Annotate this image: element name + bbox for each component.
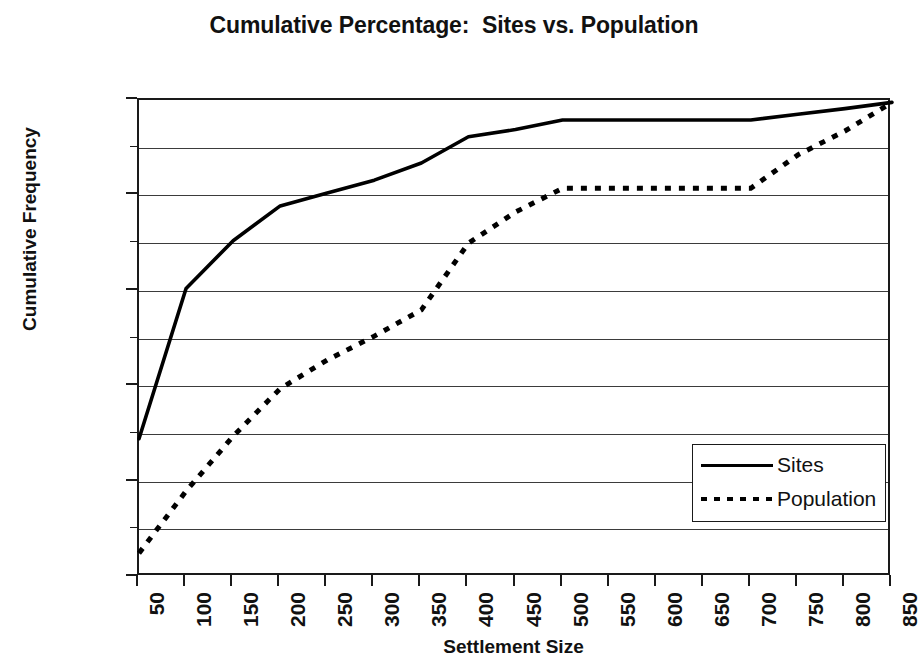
x-tick-mark	[607, 575, 609, 586]
x-tick-label: 50	[145, 592, 169, 656]
gridline	[139, 339, 888, 340]
x-tick-label: 600	[663, 592, 687, 656]
x-tick-mark	[795, 575, 797, 586]
x-tick-label: 250	[333, 592, 357, 656]
x-tick-mark	[183, 575, 185, 586]
x-tick-label: 750	[804, 592, 828, 656]
x-tick-label: 300	[380, 592, 404, 656]
y-minor-tick-mark	[130, 241, 137, 242]
x-tick-label: 700	[757, 592, 781, 656]
legend-item-population: Population	[701, 482, 876, 516]
y-minor-tick-mark	[130, 432, 137, 433]
legend-swatch-solid-line-icon	[701, 458, 773, 472]
gridline	[139, 195, 888, 196]
x-tick-label: 400	[474, 592, 498, 656]
y-axis-title: Cumulative Frequency	[19, 39, 41, 419]
y-tick-mark	[126, 288, 137, 290]
x-tick-label: 550	[616, 592, 640, 656]
x-tick-mark	[701, 575, 703, 586]
gridline	[139, 529, 888, 530]
x-tick-mark	[654, 575, 656, 586]
x-tick-mark	[748, 575, 750, 586]
x-tick-mark	[560, 575, 562, 586]
legend-item-sites: Sites	[701, 448, 824, 482]
chart-legend: Sites Population	[692, 444, 886, 522]
x-tick-mark	[324, 575, 326, 586]
x-tick-label: 450	[522, 592, 546, 656]
x-tick-label: 850	[898, 592, 922, 656]
y-minor-tick-mark	[130, 146, 137, 147]
gridline	[139, 148, 888, 149]
x-tick-mark	[230, 575, 232, 586]
x-tick-mark	[277, 575, 279, 586]
x-tick-mark	[513, 575, 515, 586]
y-tick-mark	[126, 383, 137, 385]
x-tick-label: 800	[851, 592, 875, 656]
x-tick-mark	[136, 575, 138, 586]
x-tick-label: 150	[239, 592, 263, 656]
series-line-sites	[139, 102, 892, 438]
gridline	[139, 434, 888, 435]
legend-label-population: Population	[777, 487, 876, 511]
x-tick-label: 500	[569, 592, 593, 656]
gridline	[139, 291, 888, 292]
y-minor-tick-mark	[130, 527, 137, 528]
y-minor-tick-mark	[130, 337, 137, 338]
x-tick-mark	[889, 575, 891, 586]
gridline	[139, 386, 888, 387]
x-tick-label: 650	[710, 592, 734, 656]
legend-swatch-dotted-line-icon	[701, 492, 773, 506]
x-tick-mark	[418, 575, 420, 586]
y-tick-mark	[126, 479, 137, 481]
x-tick-label: 200	[286, 592, 310, 656]
y-tick-mark	[126, 97, 137, 99]
x-tick-label: 350	[427, 592, 451, 656]
chart-title: Cumulative Percentage: Sites vs. Populat…	[0, 12, 908, 39]
gridline	[139, 243, 888, 244]
legend-label-sites: Sites	[777, 453, 824, 477]
x-tick-mark	[842, 575, 844, 586]
y-tick-mark	[126, 192, 137, 194]
x-tick-label: 100	[192, 592, 216, 656]
x-tick-mark	[371, 575, 373, 586]
x-tick-mark	[465, 575, 467, 586]
